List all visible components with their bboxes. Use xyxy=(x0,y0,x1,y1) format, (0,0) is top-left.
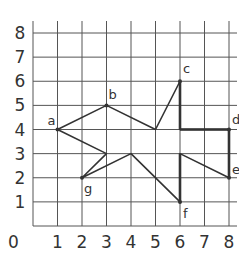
point-labels: abcdefg xyxy=(48,61,240,221)
coordinate-grid-diagram: 01234567812345678 abcdefg xyxy=(0,0,239,258)
y-tick-label: 8 xyxy=(15,23,26,43)
y-tick-label: 2 xyxy=(15,168,26,188)
origin-label: 0 xyxy=(8,232,19,252)
y-tick-label: 7 xyxy=(15,47,26,67)
y-tick-label: 3 xyxy=(15,144,26,164)
point-e-label: e xyxy=(232,162,239,177)
grid-lines xyxy=(33,21,237,226)
x-tick-label: 7 xyxy=(199,232,210,252)
x-tick-label: 8 xyxy=(224,232,235,252)
point-a-dot xyxy=(56,128,60,132)
point-c-dot xyxy=(178,79,182,83)
x-tick-label: 6 xyxy=(175,232,186,252)
y-tick-label: 1 xyxy=(15,192,26,212)
y-tick-label: 5 xyxy=(15,95,26,115)
point-a-label: a xyxy=(48,113,56,128)
x-tick-label: 5 xyxy=(150,232,161,252)
y-tick-label: 6 xyxy=(15,71,26,91)
x-tick-label: 3 xyxy=(101,232,112,252)
point-c-label: c xyxy=(183,61,190,76)
point-e-dot xyxy=(227,176,231,180)
point-g-dot xyxy=(80,176,84,180)
point-d-label: d xyxy=(232,112,239,127)
x-tick-label: 2 xyxy=(77,232,88,252)
point-d-dot xyxy=(227,128,231,132)
x-tick-label: 4 xyxy=(126,232,137,252)
point-b-dot xyxy=(105,103,109,107)
point-b-label: b xyxy=(109,87,117,102)
y-tick-label: 4 xyxy=(15,120,26,140)
x-tick-label: 1 xyxy=(52,232,63,252)
point-f-label: f xyxy=(183,206,188,221)
point-f-dot xyxy=(178,200,182,204)
point-g-label: g xyxy=(84,181,92,196)
